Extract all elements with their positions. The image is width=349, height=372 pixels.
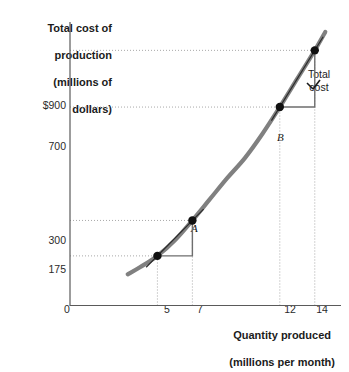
data-point-marker (153, 252, 161, 260)
data-point-markers (153, 46, 319, 260)
gridlines (70, 50, 315, 305)
data-point-marker (188, 216, 196, 224)
curve-label-pointer (307, 80, 320, 89)
total-cost-curve (128, 32, 326, 274)
data-point-marker (276, 103, 284, 111)
data-point-marker (311, 46, 319, 54)
axes (70, 22, 341, 306)
x-axis-title-line-2: (millions per month) (229, 356, 335, 368)
tangent-lines (146, 37, 323, 268)
cost-curve-line (128, 32, 326, 274)
slope-triangles (157, 50, 314, 256)
